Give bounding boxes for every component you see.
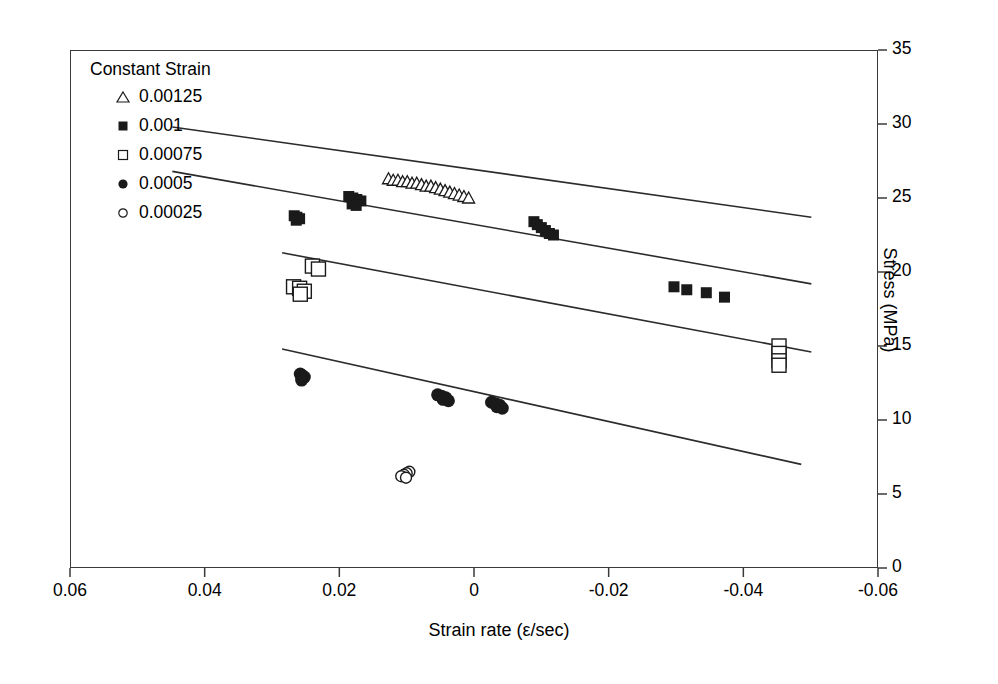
legend-item-0.001[interactable]: 0.001 (86, 111, 316, 140)
legend-title: Constant Strain (86, 56, 316, 82)
filled-square-point (681, 284, 692, 295)
0.00075-fit (282, 253, 811, 352)
data-points-group (287, 173, 786, 483)
y-tick-label: 10 (892, 408, 932, 429)
y-tick-label: 35 (892, 38, 932, 59)
x-tick-label: -0.06 (838, 580, 918, 601)
x-tick-label: -0.04 (703, 580, 783, 601)
open-square-point (311, 262, 325, 276)
filled-square-icon (112, 118, 134, 134)
series-0.001 (289, 191, 730, 303)
x-axis-title: Strain rate (ε/sec) (0, 620, 998, 641)
x-tick-label: 0.06 (30, 580, 110, 601)
series-0.00075 (287, 259, 786, 372)
legend: Constant Strain 0.00125 0.001 0.00075 0.… (86, 56, 316, 227)
y-axis-title: Stress (MPa) (879, 247, 900, 352)
open-square-icon (112, 147, 134, 163)
legend-label: 0.00125 (139, 86, 202, 107)
open-circle-icon (112, 205, 134, 221)
legend-item-0.00025[interactable]: 0.00025 (86, 198, 316, 227)
x-tick-label: -0.02 (569, 580, 649, 601)
legend-label: 0.00075 (139, 144, 202, 165)
filled-circle-point (496, 402, 509, 415)
filled-square-point (701, 287, 712, 298)
x-tick-label: 0.04 (165, 580, 245, 601)
y-tick-label: 5 (892, 482, 932, 503)
filled-square-point (719, 292, 730, 303)
open-triangle-icon (112, 89, 134, 105)
filled-square-point (351, 200, 362, 211)
series-0.00025 (396, 466, 415, 483)
filled-circle-icon (112, 176, 134, 192)
y-tick-label: 30 (892, 112, 932, 133)
legend-label: 0.0005 (139, 173, 193, 194)
filled-circle-point (295, 374, 308, 387)
legend-item-0.00125[interactable]: 0.00125 (86, 82, 316, 111)
legend-label: 0.001 (139, 115, 183, 136)
filled-square-point (548, 230, 559, 241)
filled-circle-point (442, 394, 455, 407)
0.0005-fit (282, 349, 801, 464)
x-tick-label: 0 (434, 580, 514, 601)
legend-label: 0.00025 (139, 202, 202, 223)
x-tick-label: 0.02 (299, 580, 379, 601)
y-tick-label: 0 (892, 556, 932, 577)
filled-square-point (668, 281, 679, 292)
open-square-point (293, 287, 307, 301)
legend-item-0.0005[interactable]: 0.0005 (86, 169, 316, 198)
open-circle-point (400, 472, 411, 483)
legend-item-0.00075[interactable]: 0.00075 (86, 140, 316, 169)
series-0.00125 (382, 173, 474, 203)
open-square-point (772, 358, 786, 372)
chart-figure: Constant Strain 0.00125 0.001 0.00075 0.… (0, 0, 998, 684)
y-tick-label: 25 (892, 186, 932, 207)
